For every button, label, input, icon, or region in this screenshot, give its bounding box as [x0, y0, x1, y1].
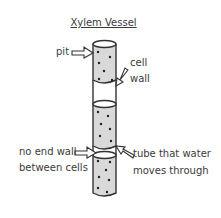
label-tube-line1: tube that water — [133, 148, 211, 160]
tube-arrow — [116, 146, 134, 158]
label-no-end-wall-line2: between cells — [19, 162, 88, 174]
pit-arrow — [72, 47, 93, 58]
label-cell-wall-line1: cell — [130, 57, 147, 69]
label-tube-line2: moves through — [133, 165, 209, 177]
label-pit: pit — [56, 46, 69, 58]
label-cell-wall-line2: wall — [130, 73, 150, 85]
xylem-vessel-drawing — [0, 0, 221, 218]
label-no-end-wall-line1: no end wall — [19, 146, 77, 158]
cell-wall-arrow — [116, 68, 128, 86]
